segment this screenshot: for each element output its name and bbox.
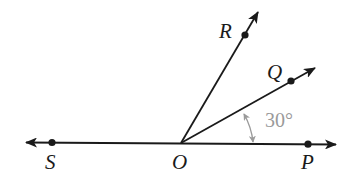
label-s: S (45, 150, 56, 174)
label-q: Q (267, 60, 282, 84)
point-r (241, 31, 248, 38)
angle-arc-qop (244, 114, 253, 142)
point-q (287, 77, 294, 84)
geometry-diagram: R Q S O P 30° (0, 0, 350, 183)
point-p (304, 141, 311, 148)
label-p: P (300, 150, 314, 174)
diagram-svg: R Q S O P 30° (0, 0, 350, 183)
point-s (48, 139, 55, 146)
angle-label-30: 30° (265, 109, 293, 131)
label-r: R (218, 19, 232, 43)
label-o: O (172, 150, 187, 174)
ray-oq (181, 68, 315, 143)
